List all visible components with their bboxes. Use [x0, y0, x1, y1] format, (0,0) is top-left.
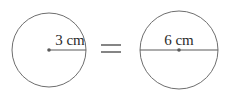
geometry-figure: 3 cm 6 cm [0, 0, 232, 101]
left-circle-measure-label: 3 cm [55, 32, 85, 48]
equals-sign [101, 45, 121, 52]
right-circle-center-dot [177, 48, 181, 52]
diagram-canvas: 3 cm 6 cm [0, 0, 232, 101]
right-circle-measure-label: 6 cm [164, 32, 194, 48]
left-circle-center-dot [47, 48, 51, 52]
